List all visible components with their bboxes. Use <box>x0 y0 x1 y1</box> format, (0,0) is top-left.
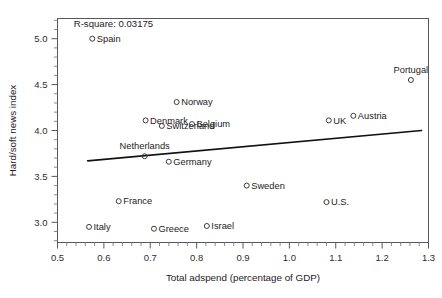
x-tick-label: 0.9 <box>236 252 249 263</box>
data-point-marker <box>166 159 171 164</box>
plot-canvas: 0.50.60.70.80.91.01.11.21.3 3.03.54.04.5… <box>0 0 442 298</box>
x-axis-ticks <box>58 243 429 249</box>
data-point-label: U.S. <box>331 197 349 207</box>
y-tick-label: 4.0 <box>34 125 47 136</box>
data-point-marker <box>324 200 329 205</box>
y-axis-ticks <box>52 20 58 240</box>
x-tick-label: 0.6 <box>97 252 110 263</box>
data-point-marker <box>408 78 413 83</box>
data-point-marker <box>174 100 179 105</box>
x-tick-label: 1.0 <box>283 252 296 263</box>
x-axis-title: Total adspend (percentage of GDP) <box>166 272 320 283</box>
data-point-marker <box>90 36 95 41</box>
x-axis-tick-labels: 0.50.60.70.80.91.01.11.21.3 <box>51 252 435 263</box>
data-point-label: Sweden <box>251 181 285 191</box>
data-point-marker <box>143 118 148 123</box>
data-point-marker <box>204 223 209 228</box>
axes-frame <box>58 19 429 243</box>
r-square-label: R-square: 0.03175 <box>74 18 153 29</box>
plot-border <box>58 19 429 243</box>
y-axis-title: Hard/soft news index <box>7 85 18 177</box>
x-tick-label: 0.8 <box>190 252 203 263</box>
r-square-annotation: R-square: 0.03175 <box>74 18 153 29</box>
data-point-marker <box>116 199 121 204</box>
data-point-marker <box>326 118 331 123</box>
y-tick-label: 4.5 <box>34 79 47 90</box>
data-point-label: Spain <box>97 34 121 44</box>
x-tick-label: 0.5 <box>51 252 64 263</box>
x-tick-label: 0.7 <box>144 252 157 263</box>
data-point-label: Portugal <box>394 65 429 75</box>
data-point-label: Netherlands <box>120 141 170 151</box>
x-tick-label: 1.2 <box>376 252 389 263</box>
x-tick-label: 1.1 <box>329 252 342 263</box>
data-point-label: Italy <box>94 222 111 232</box>
data-point-marker <box>244 183 249 188</box>
data-point-label: Israel <box>211 221 234 231</box>
x-tick-label: 1.3 <box>422 252 435 263</box>
y-axis-tick-labels: 3.03.54.04.55.0 <box>34 33 47 228</box>
y-tick-label: 3.0 <box>34 217 47 228</box>
data-point-marker <box>87 224 92 229</box>
data-point-marker <box>151 226 156 231</box>
y-tick-label: 5.0 <box>34 33 47 44</box>
data-point-label: France <box>123 196 152 206</box>
data-point-label: Austria <box>358 111 388 121</box>
scatter-plot-figure: 0.50.60.70.80.91.01.11.21.3 3.03.54.04.5… <box>0 0 442 298</box>
data-point-label: Switzerland <box>166 121 214 131</box>
data-point-label: Greece <box>158 224 189 234</box>
data-point-label: Germany <box>173 157 212 167</box>
data-point-marker <box>351 113 356 118</box>
data-point-label: Norway <box>181 97 213 107</box>
y-tick-label: 3.5 <box>34 171 47 182</box>
data-point-label: UK <box>333 116 347 126</box>
